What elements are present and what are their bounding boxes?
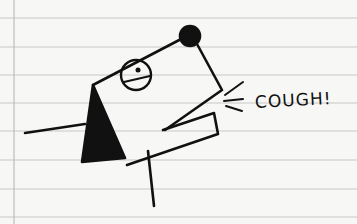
ruled-lines bbox=[0, 18, 357, 217]
cough-lines bbox=[224, 82, 243, 111]
cough-caption: COUGH! bbox=[255, 88, 332, 112]
ruled-paper-drawing bbox=[0, 0, 357, 224]
ear-shape bbox=[82, 85, 125, 162]
dog-figure bbox=[25, 26, 243, 206]
